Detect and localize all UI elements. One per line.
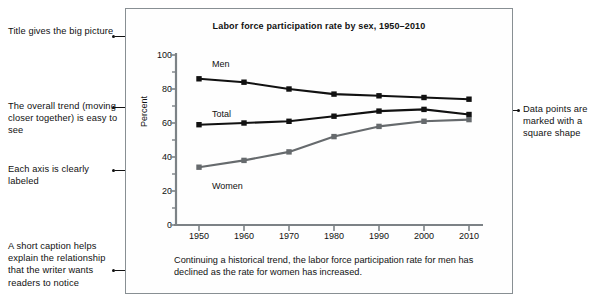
chart-svg [126, 9, 514, 295]
annotation-title-note: Title gives the big picture [8, 25, 116, 37]
annotation-marker-note: Data points are marked with a square sha… [523, 103, 611, 140]
annotation-axis-note: Each axis is clearly labeled [8, 163, 120, 187]
figure-caption: Continuing a historical trend, the labor… [174, 254, 494, 279]
figure-container: Labor force participation rate by sex, 1… [125, 8, 513, 294]
arrow-dot-icon [517, 109, 520, 112]
chart-plot-area: 100 80 60 40 20 0 1950 1960 1970 1980 19… [126, 9, 514, 295]
annotation-trend-note: The overall trend (moving closer togethe… [8, 100, 118, 137]
annotation-caption-note: A short caption helps explain the relati… [8, 240, 120, 289]
